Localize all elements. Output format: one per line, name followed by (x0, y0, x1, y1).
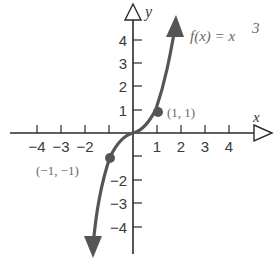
y-tick-label: 4 (119, 32, 127, 49)
x-tick-label: −2 (76, 138, 93, 155)
curve-arrow-down-icon (84, 236, 102, 258)
x-tick-label: −3 (52, 138, 69, 155)
x-tick-label: 1 (153, 138, 161, 155)
y-axis: y 4 3 2 1 −2 −3 −4 (110, 3, 153, 254)
y-tick-label: 2 (119, 78, 127, 95)
point-label-1-1: (1, 1) (167, 105, 195, 120)
point-label-neg1-neg1: (−1, −1) (36, 163, 79, 178)
y-axis-arrow-icon (125, 4, 141, 20)
point-neg1-neg1 (105, 153, 115, 163)
x-tick-label: 3 (201, 138, 209, 155)
x-axis: x −4 −3 −2 1 2 3 4 (10, 109, 272, 155)
point-1-1 (153, 107, 163, 117)
y-tick-label: −4 (110, 219, 127, 236)
y-tick-label: −3 (110, 195, 127, 212)
y-tick-label: 1 (119, 102, 127, 119)
curve-arrow-up-icon (166, 15, 184, 37)
x-tick-label: −4 (28, 138, 45, 155)
y-tick-label: −2 (110, 172, 127, 189)
function-label-exponent: 3 (251, 20, 260, 36)
function-label: f(x) = x 3 (190, 20, 260, 45)
y-axis-label: y (143, 3, 153, 21)
cubic-function-graph: x −4 −3 −2 1 2 3 4 y 4 3 2 1 −2 −3 −4 (0, 0, 277, 264)
y-tick-label: 3 (119, 55, 127, 72)
cubic-curve (84, 15, 184, 258)
x-tick-label: 2 (177, 138, 185, 155)
x-axis-arrow-icon (254, 125, 272, 141)
function-label-text: f(x) = x (190, 28, 235, 45)
x-axis-label: x (252, 109, 260, 125)
x-tick-label: 4 (225, 138, 233, 155)
